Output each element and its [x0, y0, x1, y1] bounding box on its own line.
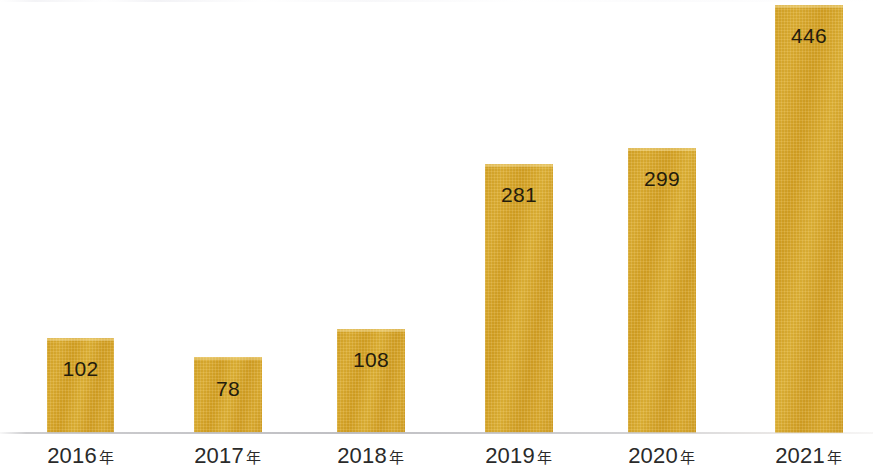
bar-group-2019: 281 — [485, 0, 553, 433]
x-tick-year-2017: 2017 — [194, 443, 244, 468]
x-tick-year-2020: 2020 — [628, 443, 678, 468]
x-tick-label-2020: 2020年 — [614, 444, 709, 470]
bar-value-label-2019: 281 — [485, 184, 553, 205]
bar-value-label-2016: 102 — [47, 358, 114, 379]
x-tick-label-2016: 2016年 — [33, 444, 128, 470]
bar-highlight — [337, 329, 405, 332]
x-tick-year-2016: 2016 — [47, 443, 97, 468]
bar-highlight — [47, 338, 114, 341]
bar-group-2016: 102 — [47, 0, 114, 433]
bar-value-label-2017: 78 — [194, 378, 262, 399]
bar-highlight — [194, 357, 262, 360]
bar-group-2021: 446 — [775, 0, 843, 433]
bar-value-label-2018: 108 — [337, 349, 405, 370]
bar-value-label-2021: 446 — [775, 25, 843, 46]
bar-highlight — [485, 164, 553, 167]
x-axis: 2016年 2017年 2018年 2019年 2020年 2021年 — [0, 433, 873, 474]
x-tick-suffix-2021: 年 — [827, 449, 842, 467]
bar-2020[interactable] — [628, 148, 696, 433]
bar-2016[interactable] — [47, 338, 114, 433]
bar-group-2018: 108 — [337, 0, 405, 433]
x-tick-label-2019: 2019年 — [471, 444, 566, 470]
x-tick-suffix-2018: 年 — [389, 449, 404, 467]
bar-highlight — [628, 148, 696, 151]
x-tick-label-2017: 2017年 — [180, 444, 275, 470]
bar-2018[interactable] — [337, 329, 405, 433]
bar-highlight — [775, 5, 843, 8]
x-tick-suffix-2019: 年 — [537, 449, 552, 467]
bar-group-2017: 78 — [194, 0, 262, 433]
x-tick-suffix-2017: 年 — [246, 449, 261, 467]
x-tick-year-2018: 2018 — [337, 443, 387, 468]
x-tick-suffix-2016: 年 — [99, 449, 114, 467]
bar-2021[interactable] — [775, 5, 843, 433]
x-tick-label-2018: 2018年 — [323, 444, 418, 470]
x-tick-year-2021: 2021 — [775, 443, 825, 468]
bar-group-2020: 299 — [628, 0, 696, 433]
bar-chart: 102 78 108 281 299 — [0, 0, 873, 474]
plot-area: 102 78 108 281 299 — [0, 0, 873, 433]
x-tick-label-2021: 2021年 — [761, 444, 856, 470]
bar-value-label-2020: 299 — [628, 168, 696, 189]
x-tick-year-2019: 2019 — [485, 443, 535, 468]
x-tick-suffix-2020: 年 — [680, 449, 695, 467]
